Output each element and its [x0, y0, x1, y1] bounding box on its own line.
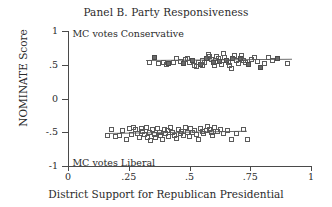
scatter-point [120, 128, 125, 133]
scatter-point [285, 61, 290, 66]
scatter-point [196, 137, 201, 142]
chart-title: Panel B. Party Responsiveness [0, 6, 332, 18]
y-tick-mark [62, 31, 68, 32]
scatter-point [262, 61, 267, 66]
scatter-point [147, 60, 152, 65]
scatter-point [246, 62, 251, 67]
scatter-point [234, 131, 239, 136]
y-tick-mark [62, 132, 68, 133]
scatter-point [225, 128, 230, 133]
x-axis-label: District Support for Republican Presiden… [0, 188, 332, 200]
scatter-point [117, 133, 122, 138]
y-tick-label: .5 [18, 59, 58, 70]
y-tick-label: 0 [18, 93, 58, 104]
y-tick-mark [62, 99, 68, 100]
scatter-point [202, 60, 207, 65]
y-tick-mark [62, 65, 68, 66]
scatter-point [236, 61, 241, 66]
scatter-point [152, 55, 157, 60]
x-tick-label: 1 [291, 171, 331, 182]
scatter-point [168, 125, 173, 130]
scatter-point [109, 127, 114, 132]
scatter-point [255, 59, 260, 64]
scatter-point [144, 125, 149, 130]
conservative-annotation: MC votes Conservative [72, 28, 183, 39]
scatter-point [229, 66, 234, 71]
scatter-point [124, 137, 129, 142]
scatter-point [241, 127, 246, 132]
scatter-point [105, 133, 110, 138]
liberal-annotation: MC votes Liberal [72, 157, 155, 168]
y-tick-label: -.5 [18, 126, 58, 137]
x-tick-label: .25 [109, 171, 149, 182]
y-tick-label: 1 [18, 25, 58, 36]
scatter-point [129, 132, 134, 137]
chart-figure: Panel B. Party Responsiveness NOMINATE S… [0, 0, 332, 207]
x-tick-label: .5 [170, 171, 210, 182]
y-axis-line [68, 31, 69, 167]
x-tick-label: 0 [48, 171, 88, 182]
scatter-point [160, 137, 165, 142]
y-tick-label: -1 [18, 160, 58, 171]
scatter-point [275, 56, 280, 61]
scatter-point [174, 136, 179, 141]
scatter-point [137, 135, 142, 140]
scatter-point [245, 137, 250, 142]
scatter-point [229, 137, 234, 142]
x-tick-label: .75 [230, 171, 270, 182]
